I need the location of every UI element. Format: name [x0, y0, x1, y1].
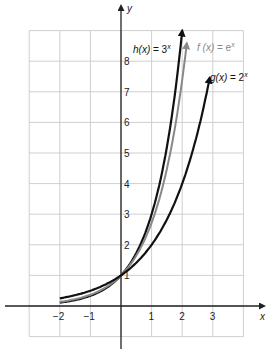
x-tick-label: −2 — [53, 311, 65, 322]
curves — [60, 31, 210, 303]
x-tick-label: 2 — [179, 311, 185, 322]
y-tick-label: 3 — [124, 209, 130, 220]
label-h: h(x) = 3x — [133, 43, 171, 55]
x-axis-label: x — [259, 311, 266, 322]
exponential-functions-graph: xy −2−112312345678 h(x) = 3xf (x) = exg(… — [0, 0, 277, 359]
y-tick-label: 6 — [124, 117, 130, 128]
curve-labels: h(x) = 3xf (x) = exg(x) = 2x — [133, 41, 248, 83]
y-tick-label: 8 — [124, 56, 130, 67]
y-tick-label: 5 — [124, 148, 130, 159]
x-tick-label: 3 — [210, 311, 216, 322]
curve-g — [60, 78, 210, 299]
label-g: g(x) = 2x — [210, 71, 248, 83]
y-tick-label: 4 — [124, 179, 130, 190]
y-tick-label: 2 — [124, 240, 130, 251]
curve-f — [60, 43, 187, 302]
tick-labels: −2−112312345678 — [53, 56, 216, 322]
y-tick-label: 7 — [124, 87, 130, 98]
x-tick-label: 1 — [149, 311, 155, 322]
label-f: f (x) = ex — [197, 41, 235, 53]
x-tick-label: −1 — [83, 311, 95, 322]
y-axis-label: y — [126, 3, 133, 14]
